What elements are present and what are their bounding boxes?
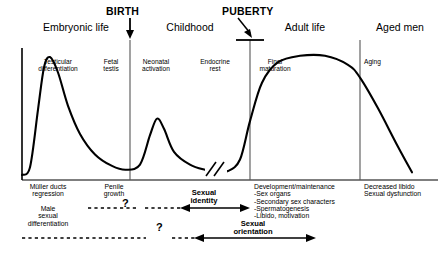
- note-line: -Spermatogenesis: [254, 205, 370, 212]
- phase-label-endocrine-rest: Endocrine rest: [190, 58, 240, 72]
- figure-root: BIRTH PUBERTY Embryonic life Childhood A…: [0, 0, 443, 264]
- phase-line: Fetal: [92, 58, 130, 65]
- note-line: Male: [8, 205, 88, 212]
- phase-line: rest: [190, 65, 240, 72]
- span-label-sexual-orientation: Sexual orientation: [222, 220, 284, 236]
- phase-label-testicular-differentiation: Testicular differentiation: [26, 58, 90, 72]
- puberty-arrow-icon: [238, 18, 252, 38]
- phase-label-final-maturation: Final maturation: [252, 58, 298, 72]
- note-penile-growth: Penile growth: [92, 183, 136, 198]
- event-label-puberty: PUBERTY: [222, 6, 274, 17]
- note-male-sexual-differentiation: Male sexual differentiation: [8, 205, 88, 227]
- phase-line: Testicular: [26, 58, 90, 65]
- note-line: sexual: [8, 212, 88, 219]
- phase-line: Endocrine: [190, 58, 240, 65]
- phase-line: Aging: [364, 58, 404, 65]
- event-label-birth: BIRTH: [106, 6, 139, 17]
- androgen-activity-curve: [22, 55, 412, 175]
- phase-label-neonatal-activation: Neonatal activation: [130, 58, 182, 72]
- span-line: identity: [180, 197, 228, 205]
- note-line: -Secondary sex characters: [254, 198, 370, 205]
- phase-line: Final: [252, 58, 298, 65]
- note-line: Müller ducts: [14, 183, 82, 190]
- note-development-maintenance: Development/maintenance -Sex organs -Sec…: [254, 183, 370, 220]
- note-line: differentiation: [8, 220, 88, 227]
- phase-line: testis: [92, 65, 130, 72]
- era-label-embryonic: Embryonic life: [14, 22, 138, 33]
- note-line: growth: [92, 190, 136, 197]
- span-label-sexual-identity: Sexual identity: [180, 189, 228, 205]
- note-line: Decreased libido: [364, 183, 443, 190]
- phase-line: Neonatal: [130, 58, 182, 65]
- era-label-childhood: Childhood: [140, 22, 240, 33]
- era-label-adult: Adult life: [262, 22, 348, 33]
- note-line: Sexual dysfunction: [364, 190, 443, 197]
- axis-break-icon: [205, 162, 227, 177]
- note-muller-ducts-regression: Müller ducts regression: [14, 183, 82, 198]
- question-mark-orientation: ?: [156, 222, 163, 234]
- span-line: orientation: [222, 228, 284, 236]
- era-label-aged: Aged men: [362, 22, 438, 33]
- phase-line: differentiation: [26, 65, 90, 72]
- phase-line: maturation: [252, 65, 298, 72]
- note-line: regression: [14, 190, 82, 197]
- note-decreased-libido: Decreased libido Sexual dysfunction: [364, 183, 443, 198]
- note-line: -Libido, motivation: [254, 212, 370, 219]
- note-line: Penile: [92, 183, 136, 190]
- note-line: Development/maintenance: [254, 183, 370, 190]
- phase-line: activation: [130, 65, 182, 72]
- phase-label-aging: Aging: [364, 58, 404, 65]
- question-mark-identity: ?: [122, 198, 129, 210]
- note-line: -Sex organs: [254, 190, 370, 197]
- phase-label-fetal-testis: Fetal testis: [92, 58, 130, 72]
